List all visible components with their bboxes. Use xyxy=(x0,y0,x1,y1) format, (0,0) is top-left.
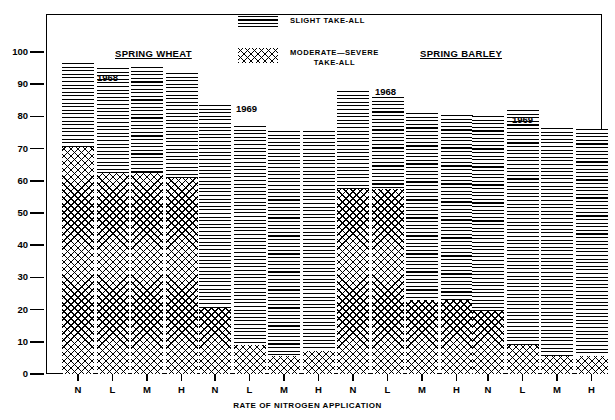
y-axis-tick-label: 40 xyxy=(2,239,28,250)
legend-item-moderate-severe: MODERATE—SEVERE TAKE-ALL xyxy=(238,48,379,68)
bar-spring-wheat-1968-M xyxy=(131,67,163,375)
bar-segment-slight xyxy=(441,115,473,300)
bar-spring-wheat-1969-N xyxy=(199,105,231,374)
x-axis-tick-label-M: M xyxy=(412,384,432,395)
y-axis-tick-label: 10 xyxy=(2,336,28,347)
bar-spring-barley-1969-M xyxy=(541,128,573,374)
bar-segment-moderate-severe xyxy=(303,351,335,374)
y-axis-tick xyxy=(30,373,44,375)
bar-segment-slight xyxy=(62,63,94,147)
y-axis-tick xyxy=(30,277,44,279)
bar-segment-moderate-severe xyxy=(507,345,539,374)
year-label-wheat-1969: 1969 xyxy=(236,103,257,114)
bar-spring-barley-1969-L xyxy=(507,110,539,374)
x-axis-tick-label-H: H xyxy=(582,384,602,395)
bar-segment-moderate-severe xyxy=(131,173,163,374)
bar-spring-wheat-1968-H xyxy=(166,73,198,374)
bar-segment-slight xyxy=(234,126,266,345)
bar-spring-barley-1968-M xyxy=(406,113,438,374)
x-axis-tick-label-H: H xyxy=(447,384,467,395)
bar-spring-wheat-1969-H xyxy=(303,131,335,374)
x-axis-label: RATE OF NITROGEN APPLICATION xyxy=(0,401,615,410)
x-axis-tick-label-M: M xyxy=(274,384,294,395)
group-title-spring-barley: SPRING BARLEY xyxy=(420,48,502,59)
y-axis-tick-label: 0 xyxy=(2,368,28,379)
y-axis-tick-label: 100 xyxy=(2,46,28,57)
y-axis-tick-label: 80 xyxy=(2,110,28,121)
x-axis-tick xyxy=(77,374,79,381)
y-axis-tick-label: 30 xyxy=(2,271,28,282)
bar-spring-barley-1969-H xyxy=(576,129,608,374)
bar-spring-wheat-1968-L xyxy=(97,68,129,374)
bar-segment-moderate-severe xyxy=(406,300,438,374)
bar-spring-barley-1968-L xyxy=(372,97,404,374)
moderate-severe-take-all-swatch-icon xyxy=(238,48,278,63)
legend-label-moderate-severe: MODERATE—SEVERE TAKE-ALL xyxy=(290,48,379,68)
bar-segment-slight xyxy=(97,68,129,173)
bar-spring-wheat-1969-M xyxy=(268,131,300,374)
bar-segment-slight xyxy=(268,131,300,356)
x-axis-tick-label-N: N xyxy=(68,384,88,395)
y-axis-tick xyxy=(30,148,44,150)
year-label-barley-1969: 1969 xyxy=(512,114,533,125)
x-axis-tick xyxy=(249,374,251,381)
x-axis-tick xyxy=(522,374,524,381)
bar-segment-slight xyxy=(337,91,369,189)
bar-segment-moderate-severe xyxy=(268,356,300,374)
y-axis-tick xyxy=(30,309,44,311)
x-axis-tick xyxy=(181,374,183,381)
x-axis-tick xyxy=(112,374,114,381)
x-axis-tick-label-N: N xyxy=(343,384,363,395)
bar-spring-barley-1968-H xyxy=(441,115,473,374)
bar-segment-slight xyxy=(406,113,438,300)
x-axis-tick-label-M: M xyxy=(137,384,157,395)
year-label-barley-1968: 1968 xyxy=(375,86,396,97)
bar-spring-barley-1969-N xyxy=(472,116,504,374)
bar-segment-moderate-severe xyxy=(372,189,404,374)
bar-segment-slight xyxy=(166,73,198,178)
bar-segment-slight xyxy=(507,110,539,345)
bar-segment-moderate-severe xyxy=(576,356,608,374)
x-axis-tick-label-N: N xyxy=(478,384,498,395)
bar-segment-slight xyxy=(372,97,404,189)
y-axis-tick-label: 50 xyxy=(2,207,28,218)
y-axis-tick-label: 20 xyxy=(2,304,28,315)
x-axis-tick xyxy=(456,374,458,381)
x-axis-tick xyxy=(352,374,354,381)
x-axis-tick-label-N: N xyxy=(205,384,225,395)
bar-segment-moderate-severe xyxy=(166,178,198,374)
y-axis-tick xyxy=(30,212,44,214)
x-axis-tick xyxy=(283,374,285,381)
y-axis-tick xyxy=(30,51,44,53)
x-axis-tick-label-H: H xyxy=(172,384,192,395)
x-axis-tick xyxy=(591,374,593,381)
y-axis-tick xyxy=(30,83,44,85)
x-axis-tick xyxy=(387,374,389,381)
y-axis-tick xyxy=(30,180,44,182)
x-axis-tick xyxy=(146,374,148,381)
x-axis-tick-label-M: M xyxy=(547,384,567,395)
x-axis-tick-label-L: L xyxy=(103,384,123,395)
year-label-wheat-1968: 1968 xyxy=(97,72,118,83)
x-axis-tick-label-H: H xyxy=(309,384,329,395)
legend-item-slight: SLIGHT TAKE-ALL xyxy=(238,16,365,29)
group-title-spring-wheat: SPRING WHEAT xyxy=(115,48,192,59)
x-axis-tick xyxy=(421,374,423,381)
x-axis-tick xyxy=(318,374,320,381)
bar-segment-slight xyxy=(199,105,231,308)
y-axis-tick xyxy=(30,341,44,343)
y-axis-tick-label: 60 xyxy=(2,175,28,186)
x-axis-tick xyxy=(487,374,489,381)
bar-segment-moderate-severe xyxy=(199,308,231,374)
bar-segment-slight xyxy=(472,116,504,311)
bar-spring-barley-1968-N xyxy=(337,91,369,374)
y-axis-tick-label: 90 xyxy=(2,78,28,89)
bar-segment-slight xyxy=(576,129,608,356)
bar-segment-slight xyxy=(541,128,573,357)
bar-spring-wheat-1969-L xyxy=(234,126,266,374)
x-axis-tick xyxy=(214,374,216,381)
bar-segment-moderate-severe xyxy=(234,345,266,374)
bar-segment-moderate-severe xyxy=(97,173,129,374)
x-axis-tick xyxy=(556,374,558,381)
y-axis-tick xyxy=(30,116,44,118)
